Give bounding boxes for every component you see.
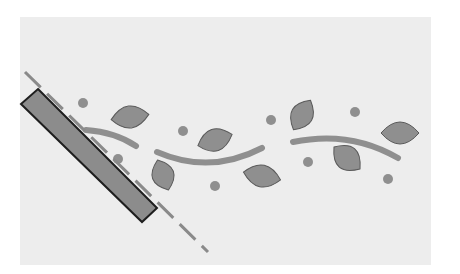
dot-shape [303,157,313,167]
dot-shape [266,115,276,125]
diagram-canvas [0,0,460,274]
dot-shape [178,126,188,136]
dot-shape [78,98,88,108]
dot-shape [210,181,220,191]
dot-shape [383,174,393,184]
dot-shape [350,107,360,117]
